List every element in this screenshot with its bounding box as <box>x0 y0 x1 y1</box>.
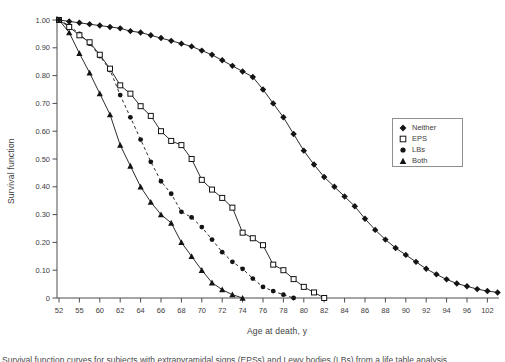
data-point <box>220 250 225 255</box>
data-point <box>97 52 102 57</box>
data-point <box>484 288 490 294</box>
data-point <box>240 230 245 235</box>
legend-label-neither: Neither <box>412 122 436 133</box>
data-point <box>117 25 123 31</box>
data-point <box>87 70 93 76</box>
x-tick-label: 88 <box>381 306 389 315</box>
x-tick-label: 94 <box>442 306 450 315</box>
y-tick-label: 0.80 <box>35 71 50 80</box>
data-point <box>280 114 286 120</box>
y-tick-label: 0.50 <box>35 155 50 164</box>
data-point <box>229 292 235 298</box>
data-point <box>189 157 194 162</box>
data-point <box>261 284 266 289</box>
data-point <box>239 68 245 74</box>
data-point <box>108 66 113 71</box>
x-tick-label: 66 <box>157 306 165 315</box>
y-tick-label: 0.20 <box>35 238 50 247</box>
data-point <box>87 40 92 45</box>
chart-plot-area: 00.100.200.300.400.500.600.700.800.901.0… <box>0 0 505 350</box>
data-point <box>118 83 123 88</box>
x-tick-label: 64 <box>136 306 144 315</box>
data-point <box>148 159 153 164</box>
legend-entry-neither: Neither <box>398 122 462 133</box>
x-tick-label: 68 <box>177 306 185 315</box>
data-point <box>219 287 225 293</box>
data-point <box>107 111 113 117</box>
data-point <box>423 266 429 272</box>
x-tick-label: 84 <box>340 306 348 315</box>
data-point <box>290 131 296 137</box>
legend-entry-eps: EPS <box>398 133 462 144</box>
x-tick-label: 90 <box>402 306 410 315</box>
data-point <box>77 33 82 38</box>
data-point <box>169 191 174 196</box>
survival-chart-figure: 00.100.200.300.400.500.600.700.800.901.0… <box>0 0 505 362</box>
data-point <box>169 138 174 143</box>
legend-label-eps: EPS <box>412 133 427 144</box>
data-point <box>270 100 276 106</box>
data-point <box>179 143 184 148</box>
data-point <box>199 177 204 182</box>
data-point <box>148 32 154 38</box>
y-tick-label: 0.60 <box>35 127 50 136</box>
data-point <box>178 239 184 245</box>
data-point <box>127 28 133 34</box>
data-point <box>118 93 123 98</box>
data-point <box>209 52 215 58</box>
data-point <box>464 283 470 289</box>
data-point <box>168 38 174 44</box>
x-tick-label: 92 <box>422 306 430 315</box>
data-point <box>474 286 480 292</box>
data-point <box>281 292 286 297</box>
data-point <box>97 22 103 28</box>
data-point <box>210 237 215 242</box>
x-tick-label: 55 <box>75 306 83 315</box>
data-point <box>291 277 296 282</box>
y-tick-label: 0.70 <box>35 99 50 108</box>
data-point <box>271 262 276 267</box>
x-tick-label: 72 <box>218 306 226 315</box>
data-point <box>433 271 439 277</box>
caption-fragment-cropped: Survival function curves for subjects wi… <box>2 355 503 362</box>
series-line <box>59 20 243 298</box>
x-tick-label: 70 <box>198 306 206 315</box>
data-point <box>301 284 306 289</box>
data-point <box>138 137 143 142</box>
x-tick-label: 102 <box>481 306 494 315</box>
x-tick-label: 82 <box>320 306 328 315</box>
data-point <box>250 276 255 281</box>
data-point <box>219 57 225 63</box>
data-point <box>117 142 123 148</box>
data-point <box>210 187 215 192</box>
data-point <box>220 195 225 200</box>
data-point <box>148 113 153 118</box>
data-point <box>159 179 164 184</box>
data-point <box>199 225 204 230</box>
data-point <box>291 296 296 301</box>
data-point <box>128 91 133 96</box>
data-point <box>138 104 143 109</box>
data-point <box>494 289 500 295</box>
x-tick-label: 52 <box>55 306 63 315</box>
data-point <box>240 266 245 271</box>
series-line <box>59 20 294 298</box>
x-tick-label: 76 <box>259 306 267 315</box>
data-point <box>229 63 235 69</box>
data-point <box>86 21 92 27</box>
legend-entry-lbs: LBs <box>398 144 462 155</box>
y-tick-label: 0.10 <box>35 266 50 275</box>
x-tick-label: 80 <box>300 306 308 315</box>
x-axis-title: Age at death, y <box>57 326 497 336</box>
data-point <box>189 215 194 220</box>
data-point <box>158 35 164 41</box>
data-point <box>281 268 286 273</box>
series-both <box>56 17 246 301</box>
data-point <box>413 259 419 265</box>
data-point <box>454 280 460 286</box>
data-point <box>76 20 82 26</box>
diamond-marker-icon <box>398 123 408 133</box>
series-lbs <box>57 18 296 301</box>
y-tick-label: 0.90 <box>35 43 50 52</box>
data-point <box>443 276 449 282</box>
